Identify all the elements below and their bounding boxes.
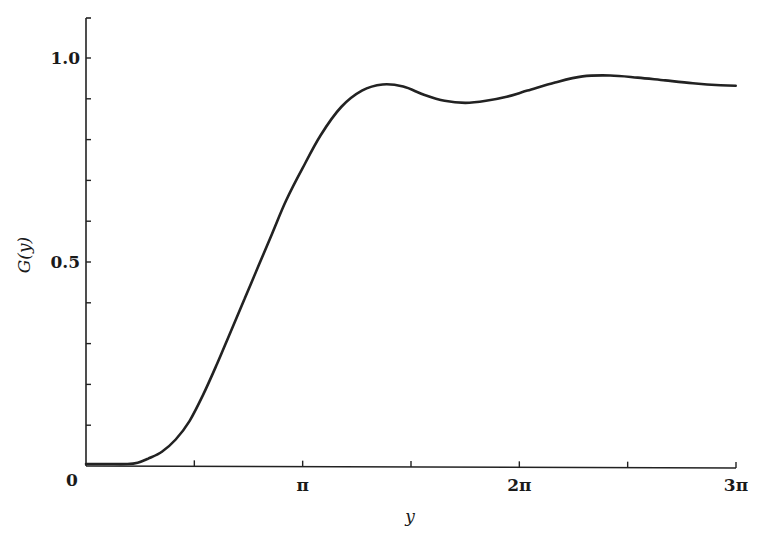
y-axis-title: G(y) bbox=[14, 237, 34, 273]
x-axis-title: y bbox=[404, 506, 415, 526]
plot-area bbox=[86, 75, 736, 464]
chart: 0 y G(y) 0.51.0π2π3π bbox=[0, 0, 764, 542]
axes bbox=[86, 18, 736, 468]
axis-labels: 0 y G(y) 0.51.0π2π3π bbox=[14, 48, 748, 526]
x-tick-label: 2π bbox=[507, 475, 531, 495]
y-tick-label: 1.0 bbox=[50, 48, 80, 68]
y-tick-label: 0.5 bbox=[50, 252, 80, 272]
series-line bbox=[86, 75, 736, 464]
x-tick-label: π bbox=[296, 475, 308, 495]
origin-label: 0 bbox=[66, 470, 78, 490]
x-tick-label: 3π bbox=[724, 475, 748, 495]
